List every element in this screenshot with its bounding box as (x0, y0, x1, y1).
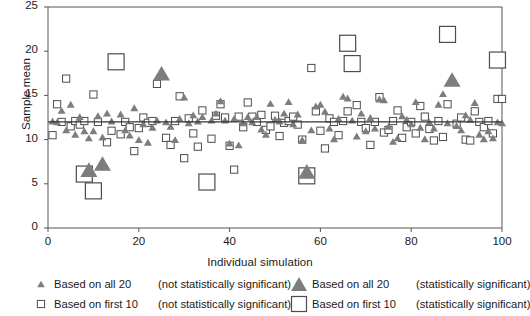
data-point (435, 117, 442, 124)
data-point (267, 123, 274, 130)
legend-marker (291, 277, 307, 291)
data-point (76, 113, 84, 120)
data-point (162, 134, 169, 141)
data-point (108, 127, 115, 134)
data-point (316, 101, 324, 108)
legend-large-triangle-icon (286, 274, 312, 294)
data-point (440, 26, 456, 42)
data-point (353, 133, 361, 140)
legend-entry: Based on all 20(not statistically signif… (28, 274, 291, 294)
data-point (439, 90, 447, 97)
legend-significance-label: (statistically significant) (416, 278, 530, 290)
data-point (394, 107, 401, 114)
data-point (98, 134, 106, 141)
data-point (353, 102, 360, 109)
data-point (367, 141, 374, 148)
data-point (94, 112, 102, 119)
data-point (231, 166, 238, 173)
data-point (199, 174, 215, 190)
data-point (89, 127, 97, 134)
chart-legend: Based on all 20(not statistically signif… (0, 272, 520, 316)
data-point (412, 98, 420, 105)
legend-marker (37, 281, 45, 288)
legend-label: Based on all 20 (54, 278, 158, 290)
data-point (85, 183, 101, 199)
data-point (266, 100, 274, 107)
data-point (171, 136, 179, 143)
data-point (194, 143, 201, 150)
data-point (444, 119, 452, 126)
data-point (276, 132, 283, 139)
data-point (498, 95, 505, 102)
legend-entry: Based on first 10(statistically signific… (286, 294, 530, 314)
data-point (308, 64, 315, 71)
data-point (421, 135, 429, 142)
data-point (467, 137, 474, 144)
data-point (344, 108, 351, 115)
legend-entry: Based on first 10(not statistically sign… (28, 294, 291, 314)
legend-small-square-icon (28, 294, 54, 314)
data-point (153, 80, 160, 87)
data-point (444, 72, 461, 87)
data-point (335, 132, 342, 139)
data-markers (49, 26, 506, 198)
legend-label: Based on first 10 (312, 298, 416, 310)
data-point (430, 137, 437, 144)
data-point (485, 117, 492, 124)
data-point (131, 147, 138, 154)
data-point (71, 131, 79, 138)
data-point (90, 91, 97, 98)
data-point (199, 107, 206, 114)
series-group (49, 64, 506, 173)
data-point (208, 135, 215, 142)
data-point (321, 145, 328, 152)
data-point (144, 139, 152, 146)
data-point (285, 98, 293, 105)
data-point (108, 54, 124, 70)
legend-marker (37, 300, 44, 307)
data-point (135, 136, 143, 143)
data-point (190, 130, 197, 137)
data-point (235, 141, 243, 148)
data-point (53, 101, 60, 108)
data-point (439, 133, 446, 140)
data-point (389, 117, 396, 124)
data-point (340, 35, 356, 51)
data-point (321, 108, 329, 115)
data-point (444, 101, 451, 108)
data-point (49, 132, 56, 139)
legend-significance-label: (not statistically significant) (158, 278, 291, 290)
data-point (94, 156, 111, 171)
data-point (489, 52, 505, 68)
data-point (130, 104, 138, 111)
legend-significance-label: (not statistically significant) (158, 298, 291, 310)
data-point (434, 101, 442, 108)
data-point (416, 124, 424, 131)
legend-small-triangle-icon (28, 274, 54, 294)
data-point (181, 155, 188, 162)
data-point (280, 110, 288, 117)
data-point (317, 127, 324, 134)
data-point (103, 110, 111, 117)
legend-large-square-icon (286, 294, 312, 314)
data-point (85, 134, 93, 141)
data-point (348, 117, 356, 124)
data-point (67, 101, 75, 108)
data-point (108, 118, 116, 125)
data-point (421, 113, 428, 120)
data-point (475, 131, 483, 138)
data-point (471, 99, 479, 106)
data-point (344, 56, 360, 72)
data-point (63, 75, 70, 82)
data-point (117, 111, 125, 118)
legend-entry: Based on all 20(statistically significan… (286, 274, 530, 294)
data-point (307, 126, 315, 133)
legend-label: Based on first 10 (54, 298, 158, 310)
legend-marker (292, 297, 307, 312)
legend-significance-label: (statistically significant) (416, 298, 530, 310)
data-point (357, 110, 365, 117)
data-point (126, 124, 133, 131)
data-point (244, 99, 251, 106)
data-point (471, 108, 478, 115)
